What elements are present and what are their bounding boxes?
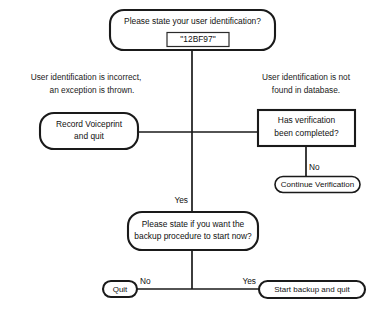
node-prompt-backup-procedure-line2: backup procedure to start now? — [134, 231, 252, 241]
node-has-verification-completed-line1: Has verification — [278, 115, 336, 125]
annotation-left: User identification is incorrect, an exc… — [31, 72, 142, 95]
node-continue-verification[interactable]: Continue Verification — [275, 177, 360, 193]
node-quit[interactable]: Quit — [103, 281, 137, 297]
edge-label-verification-no: No — [309, 162, 320, 172]
edge-label-backup-yes: Yes — [174, 195, 188, 205]
flowchart-canvas: Please state your user identification? "… — [0, 0, 375, 315]
node-has-verification-completed-line2: been completed? — [274, 128, 339, 138]
annotation-left-line1: User identification is incorrect, — [31, 72, 142, 82]
node-prompt-backup-procedure-line1: Please state if you want the — [142, 219, 245, 229]
node-continue-verification-label: Continue Verification — [281, 180, 354, 189]
node-start-backup-and-quit[interactable]: Start backup and quit — [259, 281, 365, 298]
node-record-voiceprint-line2: and quit — [74, 131, 104, 141]
annotation-right-line1: User identification is not — [262, 72, 351, 82]
annotation-right: User identification is not found in data… — [262, 72, 351, 95]
node-start-backup-and-quit-label: Start backup and quit — [274, 285, 350, 294]
node-has-verification-completed[interactable]: Has verification been completed? — [258, 110, 355, 146]
node-record-voiceprint[interactable]: Record Voiceprint and quit — [40, 113, 138, 149]
node-quit-label: Quit — [113, 285, 128, 294]
annotation-right-line2: found in database. — [272, 85, 340, 95]
annotation-left-line2: an exception is thrown. — [50, 85, 135, 95]
node-prompt-backup-procedure[interactable]: Please state if you want the backup proc… — [128, 212, 258, 250]
edge-label-quit-no: No — [140, 276, 151, 286]
node-prompt-user-identification-label: Please state your user identification? — [124, 16, 261, 26]
user-identification-input-value: "12BF97" — [180, 34, 215, 44]
node-prompt-user-identification[interactable]: Please state your user identification? "… — [110, 10, 275, 50]
edge-label-start-backup-yes: Yes — [242, 276, 256, 286]
node-record-voiceprint-line1: Record Voiceprint — [56, 119, 123, 129]
